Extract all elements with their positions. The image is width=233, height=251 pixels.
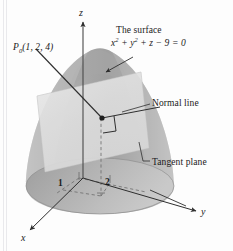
tick-label-y-2: 2 (105, 177, 110, 187)
point-p0-label: P0(1, 2, 4) (13, 42, 53, 52)
tangent-plane-label: Tangent plane (152, 157, 207, 167)
eq-plus-2: + (138, 38, 149, 48)
point-coordinates: (1, 2, 4) (22, 42, 53, 52)
eq-plus-1: + (119, 38, 130, 48)
eq-tail: − 9 = 0 (153, 38, 186, 48)
point-p0-marker (99, 115, 104, 120)
surface-caption-title: The surface (116, 25, 162, 35)
normal-line-label: Normal line (152, 98, 199, 108)
figure-container: The surface x2 + y2 + z − 9 = 0 P0(1, 2,… (0, 0, 233, 251)
surface-equation: x2 + y2 + z − 9 = 0 (111, 38, 186, 48)
axis-label-x: x (21, 233, 26, 244)
axis-label-y: y (201, 207, 206, 218)
tick-label-x-1: 1 (58, 178, 63, 188)
axis-label-z: z (79, 8, 83, 19)
